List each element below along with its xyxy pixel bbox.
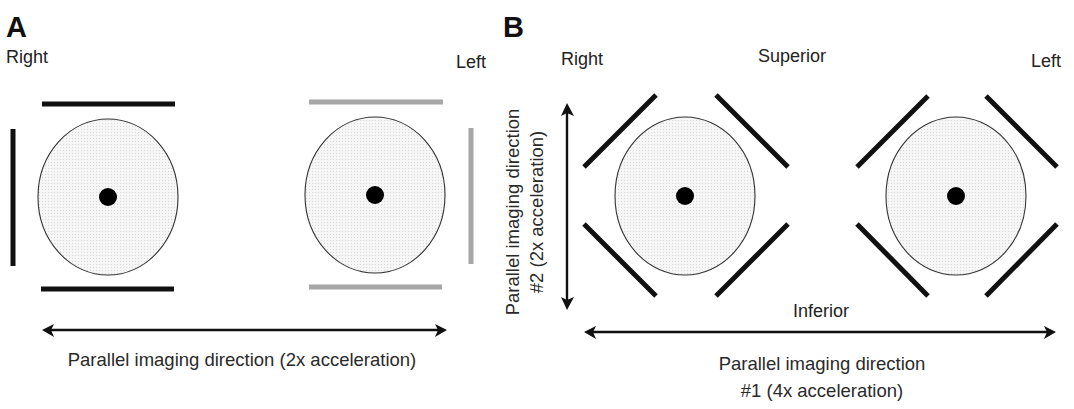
- panel-a-right-phantom-group: [13, 104, 178, 289]
- caption-2-line2: #2 (2x acceleration): [526, 131, 547, 293]
- panel-a-left-label: Left: [456, 52, 486, 72]
- figure-canvas: A Right Left Parallel imaging direction …: [0, 0, 1074, 409]
- panel-a-caption: Parallel imaging direction (2x accelerat…: [68, 349, 417, 370]
- panel-b-right-phantom-group: [584, 95, 788, 296]
- panel-b-left-label: Left: [1031, 51, 1061, 71]
- panel-a-left-phantom-group: [305, 102, 471, 287]
- caption-2-line1: Parallel imaging direction: [502, 109, 523, 316]
- panel-b-superior-label: Superior: [758, 46, 826, 66]
- panel-a-direction-arrow: [42, 324, 447, 337]
- panel-a-letter: A: [6, 11, 27, 43]
- phantom-center-dot: [99, 188, 117, 206]
- caption-1-line1: Parallel imaging direction: [719, 353, 926, 374]
- panel-b-vertical-arrow: [561, 103, 574, 310]
- panel-b-vertical-caption: Parallel imaging direction #2 (2x accele…: [502, 109, 547, 316]
- panel-a: A Right Left Parallel imaging direction …: [6, 11, 486, 370]
- panel-a-right-label: Right: [6, 47, 48, 67]
- caption-1-line2: #1 (4x acceleration): [741, 380, 903, 401]
- phantom-center-dot: [676, 187, 694, 205]
- phantom-center-dot: [947, 187, 965, 205]
- panel-b-right-label: Right: [561, 49, 603, 69]
- phantom-center-dot: [366, 186, 384, 204]
- panel-b-letter: B: [503, 11, 524, 43]
- panel-b-left-phantom-group: [857, 96, 1057, 296]
- panel-b: B Right Superior Left Parallel imaging d…: [502, 11, 1061, 401]
- panel-b-inferior-label: Inferior: [793, 301, 849, 321]
- panel-b-horizontal-arrow: [584, 326, 1056, 339]
